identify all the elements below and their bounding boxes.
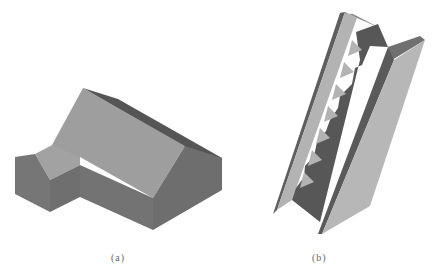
building-model bbox=[15, 88, 222, 230]
caption-b: (b) bbox=[312, 252, 327, 263]
figure-canvas bbox=[0, 0, 434, 272]
caption-a: (a) bbox=[111, 252, 125, 263]
staircase-model bbox=[273, 12, 425, 234]
